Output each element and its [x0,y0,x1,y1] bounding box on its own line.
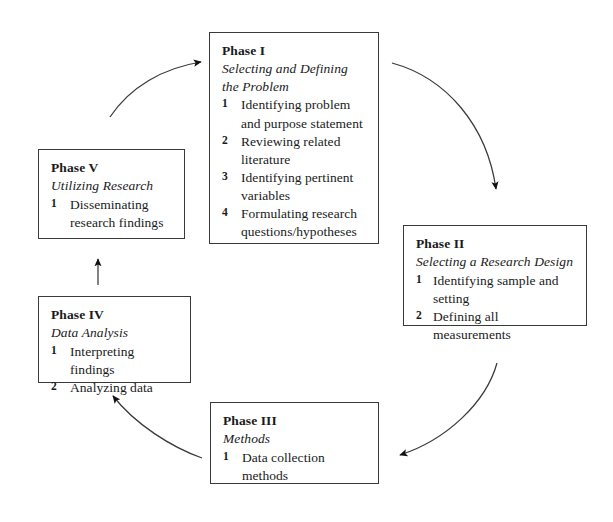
phase-title: Phase V [51,159,174,177]
arrow-phase1-to-phase2 [392,63,496,189]
step-number: 4 [222,205,228,220]
phase-title: Phase I [222,42,368,60]
phase-box-phase-2: Phase II Selecting a Research Design 1 I… [403,225,587,326]
phase-subtitle: Methods [223,430,368,448]
phase-step: 1 Data collection methods [223,449,368,485]
phase-step-list: 1 Interpreting findings 2 Analyzing data [51,343,180,397]
phase-step: 1 Interpreting findings [51,343,180,379]
step-text: Identifying sample and setting [433,272,576,308]
step-number: 2 [51,379,57,394]
phase-title: Phase III [223,412,368,430]
step-number: 1 [222,96,228,111]
phase-box-phase-3: Phase III Methods 1 Data collection meth… [210,402,379,484]
phase-step: 1 Identifying sample and setting [416,272,576,308]
research-process-cycle-diagram: Phase I Selecting and Defining the Probl… [0,0,613,522]
phase-title: Phase IV [51,306,180,324]
step-number: 3 [222,169,228,184]
step-number: 1 [51,196,57,211]
phase-step-list: 1 Data collection methods [223,449,368,485]
step-text: Defining all measurements [433,308,576,344]
phase-step: 4 Formulating research questions/hypothe… [222,205,368,241]
arrow-phase3-to-phase4 [113,396,202,458]
phase-step: 1 Disseminating research findings [51,196,174,232]
step-text: Interpreting findings [70,343,180,379]
arrow-phase5-to-phase1 [110,62,201,117]
phase-box-phase-1: Phase I Selecting and Defining the Probl… [209,32,379,244]
phase-step: 1 Identifying problem and purpose statem… [222,96,368,132]
step-text: Identifying pertinent variables [241,169,368,205]
step-number: 1 [223,449,229,464]
phase-subtitle: Data Analysis [51,324,180,342]
phase-step: 2 Defining all measurements [416,308,576,344]
phase-step: 2 Reviewing related literature [222,133,368,169]
phase-step: 2 Analyzing data [51,379,180,397]
phase-subtitle: Utilizing Research [51,177,174,195]
step-number: 2 [416,308,422,323]
phase-title: Phase II [416,235,576,253]
phase-step-list: 1 Identifying sample and setting 2 Defin… [416,272,576,344]
phase-subtitle: Selecting and Defining the Problem [222,60,368,96]
step-text: Data collection methods [242,449,368,485]
phase-subtitle: Selecting a Research Design [416,253,576,271]
step-text: Disseminating research findings [70,196,174,232]
arrow-phase2-to-phase3 [400,363,497,455]
step-number: 1 [51,343,57,358]
step-number: 1 [416,272,422,287]
step-text: Identifying problem and purpose statemen… [241,96,368,132]
phase-box-phase-5: Phase V Utilizing Research 1 Disseminati… [38,149,185,239]
phase-step-list: 1 Identifying problem and purpose statem… [222,96,368,241]
step-text: Formulating research questions/hypothese… [241,205,368,241]
step-text: Reviewing related literature [241,133,368,169]
phase-step-list: 1 Disseminating research findings [51,196,174,232]
step-text: Analyzing data [70,379,180,397]
phase-step: 3 Identifying pertinent variables [222,169,368,205]
phase-box-phase-4: Phase IV Data Analysis 1 Interpreting fi… [38,296,191,383]
step-number: 2 [222,133,228,148]
